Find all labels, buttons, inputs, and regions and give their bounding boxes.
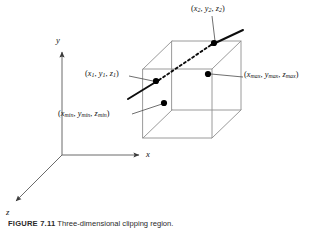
point-marker-p1 — [153, 78, 159, 84]
label-point-1: (x1, y1, z1) — [85, 70, 119, 79]
x-axis-label: x — [146, 150, 150, 159]
leader-line-group — [129, 16, 243, 114]
figure-caption: FIGURE 7.11 Three-dimensional clipping r… — [8, 219, 328, 229]
clip-line-group — [128, 30, 243, 99]
label-point-2: (x2, y2, z2) — [191, 5, 225, 14]
leader-pointmax — [211, 74, 243, 77]
box-edge-bottom-right-depth — [212, 110, 241, 138]
box-edge-bottom-left-depth — [143, 110, 172, 138]
clip-line-inside-dashed — [159, 45, 211, 80]
label-point-min: (xmin, ymin, zmin) — [58, 110, 110, 119]
point-marker-pmin — [161, 100, 167, 106]
y-axis-label: y — [56, 36, 60, 45]
point-marker-p2 — [211, 40, 217, 46]
diagram-canvas — [0, 0, 335, 229]
box-edge-top-left-depth — [143, 41, 172, 69]
figure-caption-number: FIGURE 7.11 — [8, 219, 55, 228]
label-point-max: (xmax, ymax, zmax) — [244, 71, 299, 80]
axis-group — [16, 52, 139, 201]
leader-point2 — [212, 16, 215, 41]
point-marker-pmax — [205, 71, 211, 77]
leader-point1 — [129, 76, 153, 81]
z-axis-line — [16, 155, 62, 201]
figure-container: (x2, y2, z2) (x1, y1, z1) (xmax, ymax, z… — [0, 0, 335, 229]
z-axis-label: z — [6, 208, 9, 217]
clipping-box — [143, 41, 241, 138]
box-edge-top-right-depth — [212, 41, 241, 69]
figure-caption-text: Three-dimensional clipping region. — [57, 219, 173, 228]
leader-pointmin — [132, 104, 162, 114]
